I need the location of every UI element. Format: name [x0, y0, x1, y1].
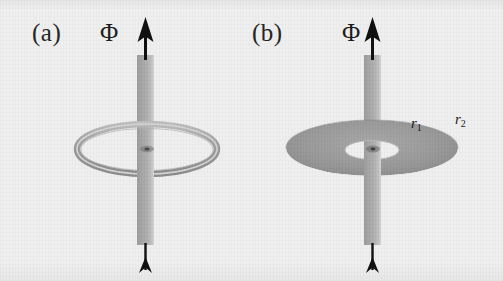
panel-a-flux-arrowtail-icon — [133, 243, 159, 279]
panel-b-center-shadow — [364, 143, 382, 155]
panel-b-label: (b) — [252, 20, 283, 45]
panel-a-flux-tube-lower — [137, 148, 154, 245]
panel-a-flux-symbol: Φ — [100, 20, 118, 45]
radius-label-r1: r1 — [411, 116, 422, 133]
panel-a-center-shadow — [138, 143, 156, 155]
radius-label-r1-subscript: 1 — [417, 122, 422, 133]
panel-a-flux-arrowhead-icon — [133, 16, 159, 60]
panel-b-flux-arrowhead-icon — [360, 16, 386, 60]
panel-b-flux-arrowtail-icon — [360, 243, 386, 279]
radius-label-r2-subscript: 2 — [461, 118, 466, 129]
panel-b: (b) Φ — [252, 0, 503, 281]
panel-b-flux-symbol: Φ — [342, 20, 360, 45]
figure-canvas: (a) Φ — [0, 0, 503, 281]
radius-label-r2: r2 — [455, 112, 466, 129]
panel-a-label: (a) — [32, 20, 61, 45]
panel-b-flux-tube-lower — [364, 148, 381, 245]
panel-a: (a) Φ — [0, 0, 251, 281]
